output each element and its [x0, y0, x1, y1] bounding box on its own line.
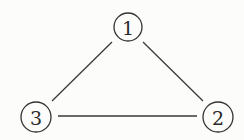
node-3-label: 3	[30, 107, 42, 129]
node-3: 3	[21, 102, 51, 132]
graph-svg: 1 2 3	[0, 0, 244, 140]
node-2: 2	[203, 102, 233, 132]
edges	[52, 42, 203, 116]
graph-diagram: 1 2 3	[0, 0, 244, 140]
edge-1-3	[52, 42, 112, 101]
edge-1-2	[143, 42, 203, 101]
node-1: 1	[114, 13, 142, 41]
node-1-label: 1	[122, 17, 134, 39]
node-2-label: 2	[212, 107, 224, 129]
